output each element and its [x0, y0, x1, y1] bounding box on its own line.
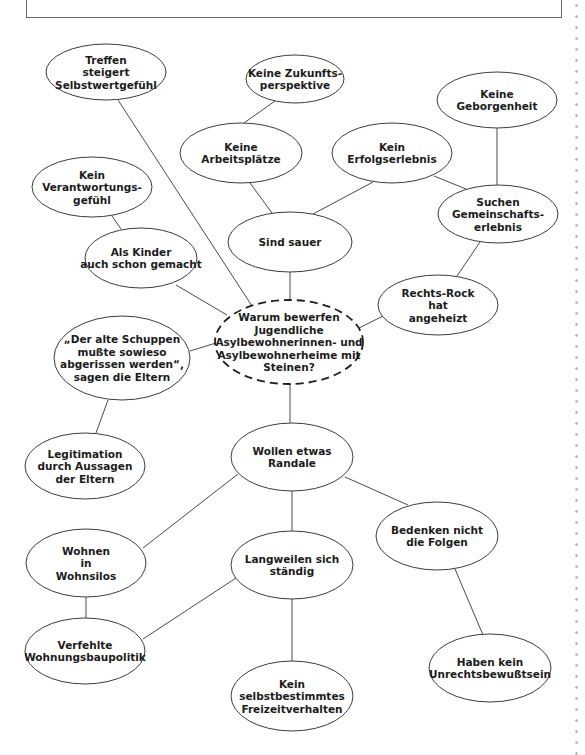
connector-langweilen-wohnungsbau	[143, 578, 236, 639]
node-label-line: der Eltern	[55, 473, 114, 485]
node-label-line: Warum bewerfen	[238, 311, 339, 323]
node-wohnsilos: WohneninWohnsilos	[26, 529, 146, 597]
node-treffen: TreffensteigertSelbstwertgefühl	[46, 44, 166, 100]
connector-arbeitsplaetze-sauer	[250, 183, 272, 213]
node-label-line: Langweilen sich	[245, 553, 340, 565]
node-label-line: Keine	[224, 141, 257, 153]
mind-map-canvas: TreffensteigertSelbstwertgefühlKeine Zuk…	[0, 0, 585, 755]
node-label-line: Gemeinschafts-	[452, 208, 544, 220]
node-langweilen: Langweilen sichständig	[231, 531, 353, 599]
node-gemeinschaft: SuchenGemeinschafts-erlebnis	[438, 185, 558, 243]
node-label-line: Erfolgserlebnis	[347, 153, 436, 165]
node-label-line: Verantwortungs-	[42, 181, 142, 193]
node-label-line: Kein	[79, 169, 105, 181]
connector-gemeinschaft-rechtsrock	[457, 242, 480, 276]
connector-bedenken-unrecht	[455, 569, 483, 635]
node-label-line: Verfehlte	[58, 639, 113, 651]
node-label-line: Jugendliche	[253, 324, 323, 336]
node-verantwortung: KeinVerantwortungs-gefühl	[32, 157, 152, 217]
node-label-line: Suchen	[476, 196, 519, 208]
node-label-line: perspektive	[260, 79, 330, 91]
node-label-line: erlebnis	[474, 221, 522, 233]
connector-kinder-center	[176, 285, 227, 315]
node-label-line: Keine Zukunfts-	[248, 67, 342, 79]
idea-nodes: TreffensteigertSelbstwertgefühlKeine Zuk…	[24, 44, 558, 731]
node-label-line: Unrechtsbewußtsein	[429, 668, 551, 680]
connector-erfolgserlebnis-sauer	[313, 182, 373, 214]
node-label-line: durch Aussagen	[38, 460, 133, 472]
node-label-line: Kein	[379, 141, 405, 153]
node-label-line: Randale	[268, 457, 316, 469]
connector-schuppen-center	[190, 343, 216, 351]
node-randale: Wollen etwasRandale	[231, 423, 353, 491]
node-wohnungsbau: VerfehlteWohnungsbaupolitik	[24, 618, 147, 684]
node-label-line: auch schon gemacht	[80, 258, 202, 270]
node-label-line: abgerissen werden“,	[60, 358, 184, 370]
node-label-line: hat	[428, 299, 448, 311]
node-label-line: Selbstwertgefühl	[55, 79, 157, 91]
node-label-line: in	[80, 557, 91, 569]
node-freizeit: KeinselbstbestimmtesFreizeitverhalten	[231, 661, 353, 731]
node-label-line: ständig	[270, 565, 314, 577]
node-bedenken: Bedenken nichtdie Folgen	[376, 502, 498, 570]
node-label-line: Keine	[480, 88, 513, 100]
connector-rechtsrock-center	[359, 316, 383, 328]
node-label-line: „Der alte Schuppen	[64, 333, 180, 345]
mind-map-svg: TreffensteigertSelbstwertgefühlKeine Zuk…	[0, 0, 585, 755]
node-sauer: Sind sauer	[228, 212, 352, 272]
node-label-line: angeheizt	[409, 312, 468, 324]
connector-zukunft-arbeitsplaetze	[244, 101, 275, 123]
connector-randale-bedenken	[345, 477, 408, 505]
connector-randale-wohnsilos	[143, 474, 238, 548]
node-rechtsrock: Rechts-Rockhatangeheizt	[378, 275, 498, 335]
node-label-line: sagen die Eltern	[74, 371, 171, 383]
node-label-line: Asylbewohnerinnen- und	[215, 336, 362, 348]
connector-erfolgserlebnis-gemeinschaft	[434, 176, 466, 189]
node-legitimation: Legitimationdurch Aussagender Eltern	[25, 433, 145, 499]
node-label-line: Wohnungsbaupolitik	[24, 651, 147, 663]
node-label-line: Freizeitverhalten	[241, 703, 342, 715]
node-label-line: Arbeitsplätze	[201, 153, 280, 165]
node-label-line: Wohnen	[62, 545, 110, 557]
node-label-line: Geborgenheit	[457, 100, 538, 112]
node-arbeitsplaetze: KeineArbeitsplätze	[180, 123, 302, 183]
node-erfolgserlebnis: KeinErfolgserlebnis	[332, 123, 452, 183]
node-schuppen: „Der alte Schuppenmußte sowiesoabgerisse…	[54, 316, 190, 400]
node-label-line: Haben kein	[457, 656, 524, 668]
node-label-line: steigert	[83, 66, 130, 78]
node-kinder: Als Kinderauch schon gemacht	[80, 228, 202, 288]
node-label-line: Sind sauer	[259, 236, 323, 248]
node-label-line: Steinen?	[263, 361, 314, 373]
node-label-line: Legitimation	[48, 448, 123, 460]
node-zukunft: Keine Zukunfts-perspektive	[246, 55, 344, 103]
node-label-line: die Folgen	[406, 536, 468, 548]
node-label-line: Treffen	[85, 54, 126, 66]
node-label-line: Rechts-Rock	[401, 287, 475, 299]
node-label-line: Wollen etwas	[252, 445, 331, 457]
node-label-line: selbstbestimmtes	[239, 690, 345, 702]
node-label-line: Asylbewohnerheime mit	[217, 349, 360, 361]
node-unrecht: Haben keinUnrechtsbewußtsein	[429, 634, 551, 702]
node-label-line: Als Kinder	[111, 246, 172, 258]
node-label-line: gefühl	[73, 194, 111, 206]
node-geborgenheit: KeineGeborgenheit	[437, 72, 557, 128]
node-label-line: Wohnsilos	[56, 570, 116, 582]
node-label-line: mußte sowieso	[77, 346, 166, 358]
connector-schuppen-legitimation	[96, 400, 108, 433]
connector-verantwortung-kinder	[112, 216, 121, 229]
node-label-line: Kein	[279, 678, 305, 690]
central-question-node: Warum bewerfenJugendlicheAsylbewohnerinn…	[215, 300, 363, 384]
node-label-line: Bedenken nicht	[391, 524, 483, 536]
